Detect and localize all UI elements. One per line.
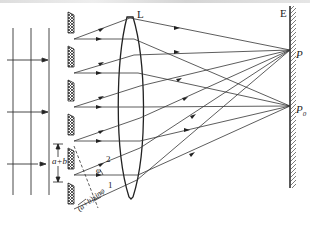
screen-label: E [280,8,287,19]
point-p0-label: P0 [296,104,306,118]
screen [290,6,296,188]
diffraction-grating-diagram [0,0,310,227]
ray-1-label: 1 [108,181,113,190]
ray-arrow-heads [96,26,196,177]
angle-phi-label: φ [96,166,101,175]
grating-constant-label: a+b [52,157,67,166]
grating [68,12,74,204]
point-p0-text: P [296,103,303,115]
lens [118,17,143,199]
ray-2-label: 2 [106,155,111,164]
lens-label: L [137,9,144,20]
point-p0-subscript: 0 [303,110,307,118]
diffracted-rays [74,18,290,209]
point-p-label: P [296,49,303,60]
point-p-text: P [296,48,303,60]
